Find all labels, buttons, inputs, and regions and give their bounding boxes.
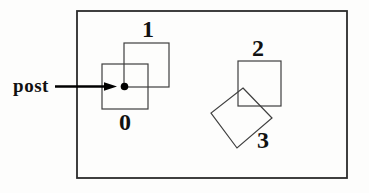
- square-1: [124, 43, 169, 87]
- post-anchor-dot: [121, 83, 129, 91]
- post-arrowhead-icon: [104, 82, 117, 91]
- square-3-label: 3: [257, 128, 269, 152]
- square-0-label: 0: [119, 110, 131, 134]
- boundary-frame: [77, 11, 347, 178]
- square-2-label: 2: [252, 36, 264, 60]
- diagram-canvas: [0, 0, 369, 193]
- square-1-label: 1: [142, 17, 154, 41]
- square-2: [238, 61, 281, 106]
- post-label: post: [13, 76, 49, 95]
- post-squares-diagram: post 0 1 2 3: [0, 0, 369, 193]
